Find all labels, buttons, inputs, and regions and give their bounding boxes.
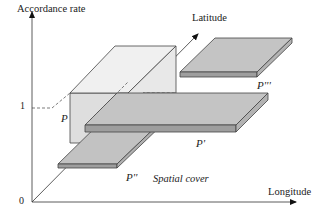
x-axis-label: Longitude xyxy=(268,187,311,198)
patch-p-double-prime-label: P'' xyxy=(126,172,137,183)
patch-p-prime-label: P' xyxy=(196,138,205,149)
slab-p-triple-prime xyxy=(180,38,292,77)
spatial-cover-annotation: Spatial cover xyxy=(153,174,209,185)
patch-p-triple-prime-label: P''' xyxy=(257,80,271,91)
y-axis-label: Accordance rate xyxy=(17,4,86,15)
patch-p-label: P xyxy=(61,113,68,124)
origin-label: 0 xyxy=(19,196,24,206)
one-tick-label: 1 xyxy=(20,101,25,111)
slab-p-prime xyxy=(85,93,268,132)
diagram-canvas: Accordance rate Latitude Longitude 0 1 P… xyxy=(0,0,324,219)
latitude-label: Latitude xyxy=(192,13,227,24)
